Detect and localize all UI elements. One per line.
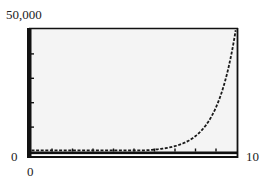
y-axis (27, 28, 32, 158)
frame-bottom (27, 156, 238, 158)
x-axis (27, 152, 238, 155)
plot-area (29, 28, 238, 155)
calculator-graph-screen (0, 0, 271, 183)
